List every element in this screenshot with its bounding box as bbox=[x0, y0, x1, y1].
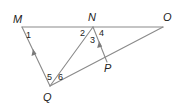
segment-nq bbox=[50, 27, 93, 86]
vertex-label-q: Q bbox=[43, 91, 52, 103]
segment-qo bbox=[50, 27, 163, 86]
angle-label-2: 2 bbox=[80, 28, 85, 38]
angle-label-4: 4 bbox=[99, 28, 104, 38]
vertex-label-p: P bbox=[104, 62, 112, 74]
angle-label-6: 6 bbox=[58, 72, 63, 82]
vertex-label-o: O bbox=[163, 11, 172, 23]
geometry-diagram: M N O Q P 1 2 3 4 5 6 bbox=[0, 0, 180, 105]
vertex-label-m: M bbox=[13, 13, 23, 25]
angle-label-1: 1 bbox=[26, 30, 31, 40]
angle-label-3: 3 bbox=[90, 35, 95, 45]
angle-label-5: 5 bbox=[47, 72, 52, 82]
vertex-label-n: N bbox=[88, 11, 96, 23]
